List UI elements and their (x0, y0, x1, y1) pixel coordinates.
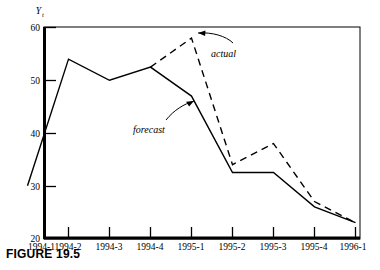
figure-caption: FIGURE 19.5 (6, 247, 80, 261)
x-tick-label: 1994-4 (137, 242, 164, 252)
x-tick-label: 1994-3 (96, 242, 123, 252)
x-tick-label: 1995-3 (260, 242, 287, 252)
x-tick-label: 1995-4 (301, 242, 328, 252)
x-tick-label: 1996-1 (340, 242, 367, 252)
y-axis-title-subscript: t (42, 11, 44, 18)
y-axis-title: Y t (36, 6, 44, 18)
annotation-label-actual: actual (211, 48, 236, 59)
x-tick-label: 1995-2 (219, 242, 246, 252)
y-tick-label: 40 (31, 129, 41, 139)
annotation-label-forecast: forecast (133, 124, 165, 135)
y-tick-label: 60 (31, 23, 41, 33)
y-tick-label: 50 (31, 76, 41, 86)
figure-container: 60 50 40 30 20 Y t 1994-1 1994-2 1994-3 (0, 0, 380, 270)
plot-frame (44, 27, 360, 239)
line-chart: 60 50 40 30 20 Y t 1994-1 1994-2 1994-3 (0, 0, 380, 270)
y-axis-labels: 60 50 40 30 20 (31, 23, 41, 244)
x-tick-label: 1995-1 (178, 242, 205, 252)
y-tick-label: 30 (31, 182, 41, 192)
